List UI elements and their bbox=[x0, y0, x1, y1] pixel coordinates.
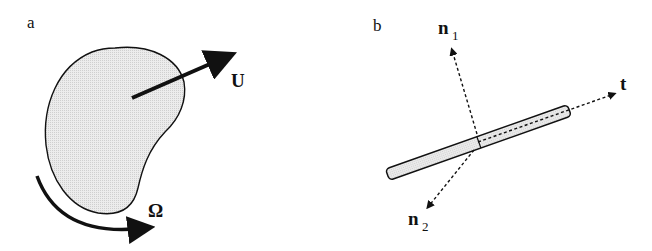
panel-b: b t n 1 n 2 bbox=[373, 16, 627, 234]
normal2-subscript: 2 bbox=[422, 219, 429, 234]
normal1-subscript: 1 bbox=[452, 28, 459, 43]
panel-a-label: a bbox=[27, 13, 35, 32]
figure-canvas: a U Ω b t n 1 n 2 bbox=[0, 0, 652, 251]
panel-b-label: b bbox=[373, 16, 382, 35]
velocity-label: U bbox=[231, 70, 245, 91]
panel-a: a U Ω bbox=[27, 13, 245, 230]
rotation-label: Ω bbox=[148, 200, 163, 221]
normal1-arrow bbox=[452, 50, 477, 134]
tangent-label: t bbox=[620, 73, 627, 94]
normal2-label: n bbox=[408, 208, 419, 229]
rigid-body-blob bbox=[45, 47, 184, 213]
normal1-label: n bbox=[438, 17, 449, 38]
tangent-arrow bbox=[478, 94, 614, 142]
